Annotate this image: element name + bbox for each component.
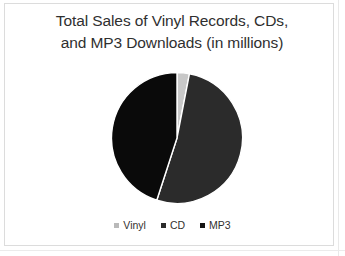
legend-label-vinyl: Vinyl	[123, 219, 146, 231]
slide-edge-bottom	[0, 250, 345, 251]
slide-frame-left	[4, 3, 5, 246]
chart-title: Total Sales of Vinyl Records, CDs, and M…	[22, 10, 322, 54]
slide-frame-right	[333, 3, 334, 246]
legend-swatch-vinyl	[114, 223, 119, 228]
legend-swatch-cd	[161, 223, 166, 228]
slide-frame-top	[4, 3, 334, 4]
slide-canvas: Total Sales of Vinyl Records, CDs, and M…	[0, 0, 345, 256]
pie-chart	[111, 72, 243, 204]
chart-legend: Vinyl CD MP3	[0, 219, 345, 231]
legend-item-cd[interactable]: CD	[161, 219, 185, 231]
slide-frame-bottom	[4, 245, 334, 246]
legend-label-mp3: MP3	[209, 219, 231, 231]
chart-title-line-2: and MP3 Downloads (in millions)	[22, 32, 322, 54]
legend-label-cd: CD	[170, 219, 185, 231]
slide-edge-right	[338, 0, 339, 256]
legend-swatch-mp3	[200, 223, 205, 228]
legend-item-mp3[interactable]: MP3	[200, 219, 231, 231]
chart-title-line-1: Total Sales of Vinyl Records, CDs,	[22, 10, 322, 32]
legend-item-vinyl[interactable]: Vinyl	[114, 219, 146, 231]
pie-chart-svg	[111, 72, 243, 204]
